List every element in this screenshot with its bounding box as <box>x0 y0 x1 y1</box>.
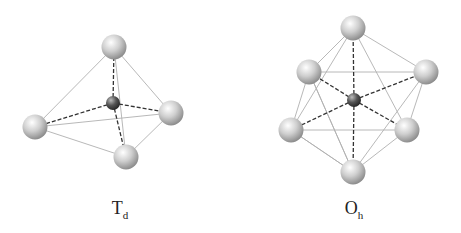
oh-edge <box>353 28 426 72</box>
tetrahedral-structure <box>23 35 184 170</box>
td-center-atom <box>106 96 120 110</box>
td-edge <box>35 47 114 127</box>
oh-label: Oh <box>345 198 364 221</box>
oh-ligand-atom <box>297 60 322 85</box>
td-edge <box>35 113 171 127</box>
td-ligand-atom <box>102 35 127 60</box>
td-ligand-atom <box>159 101 184 126</box>
oh-ligand-atom <box>279 118 304 143</box>
geometry-diagram <box>0 0 461 233</box>
oh-ligand-atom <box>341 16 366 41</box>
oh-ligand-atom <box>341 160 366 185</box>
td-ligand-atom <box>114 145 139 170</box>
td-label: Td <box>112 198 129 221</box>
td-edge <box>114 47 171 113</box>
oh-center-atom <box>347 93 361 107</box>
oh-ligand-atom <box>395 118 420 143</box>
oh-ligand-atom <box>414 60 439 85</box>
oh-edge <box>353 28 407 130</box>
octahedral-structure <box>279 16 439 185</box>
td-ligand-atom <box>23 115 48 140</box>
td-edge <box>35 127 126 157</box>
